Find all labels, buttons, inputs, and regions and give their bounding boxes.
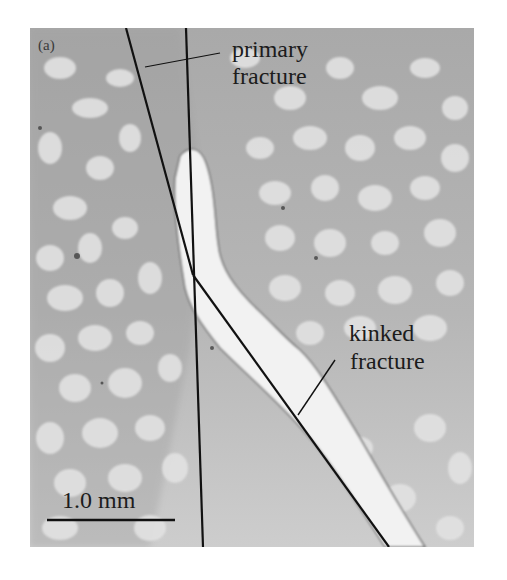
kinked-fracture-label-line2: fracture bbox=[350, 349, 425, 373]
primary-fracture-label-line1: primary bbox=[232, 37, 308, 61]
micrograph-panel bbox=[30, 28, 474, 547]
primary-fracture-label-line2: fracture bbox=[232, 64, 307, 88]
scale-bar-label: 1.0 mm bbox=[62, 488, 135, 512]
kinked-fracture-label-line1: kinked bbox=[349, 321, 414, 345]
panel-label: (a) bbox=[38, 38, 55, 53]
micrograph-image bbox=[30, 28, 474, 547]
